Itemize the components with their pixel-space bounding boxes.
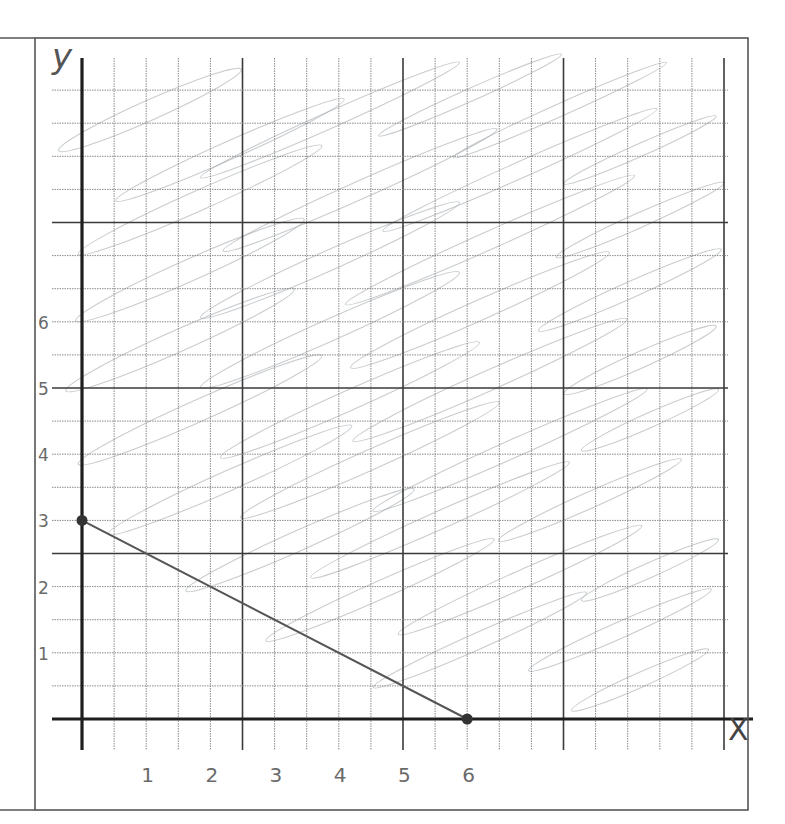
pencil-scribble	[579, 533, 722, 607]
y-tick-label: 6	[38, 313, 49, 333]
pencil-scribble	[74, 346, 326, 474]
pencil-scribble	[197, 55, 462, 185]
y-tick-label: 2	[38, 578, 49, 598]
pencil-scribble	[237, 393, 504, 527]
pencil-scribble	[451, 57, 669, 164]
x-tick-label: 6	[462, 763, 475, 787]
x-tick-label: 5	[398, 763, 411, 787]
y-tick-label: 3	[38, 511, 49, 531]
shaded-region	[55, 49, 727, 718]
pencil-scribble	[196, 262, 464, 397]
pencil-scribble	[182, 480, 419, 600]
pencil-scribble	[579, 383, 722, 457]
pencil-scribble	[347, 243, 614, 377]
pencil-scribble	[369, 381, 650, 520]
pencil-scribble	[219, 121, 500, 260]
plotted-point	[462, 714, 473, 725]
y-tick-label: 5	[38, 379, 49, 399]
y-tick-label: 4	[38, 445, 49, 465]
x-tick-label: 4	[334, 763, 347, 787]
worksheet-frame	[35, 38, 748, 810]
y-axis-label: y	[51, 36, 73, 76]
x-tick-label: 1	[141, 763, 154, 787]
coordinate-graph: 123456123456 y X	[0, 0, 785, 824]
pencil-scribble	[349, 310, 631, 450]
graph-worksheet: 123456123456 y X	[0, 0, 785, 824]
x-tick-label: 3	[270, 763, 283, 787]
pencil-scribble	[74, 137, 326, 264]
pencil-scribble	[525, 582, 714, 678]
pencil-scribble	[104, 417, 356, 544]
pencil-scribble	[495, 452, 684, 548]
pencil-scribble	[569, 643, 712, 717]
x-axis-label: X	[728, 712, 749, 747]
pencil-scribble	[561, 110, 718, 189]
pencil-scribble	[217, 333, 484, 467]
pencil-scribble	[61, 279, 298, 401]
pencil-scribble	[71, 209, 308, 331]
x-tick-label: 2	[205, 763, 218, 787]
plotted-point	[77, 515, 88, 526]
y-tick-label: 1	[38, 644, 49, 664]
pencil-scribble	[112, 91, 348, 209]
